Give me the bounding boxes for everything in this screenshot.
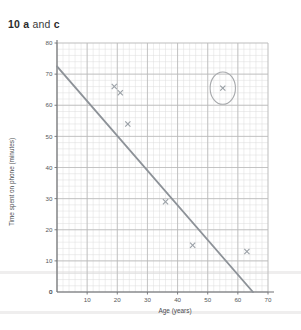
question-part-c: c [54, 18, 60, 30]
line-of-best-fit [57, 66, 253, 292]
question-conjunction: and [32, 18, 50, 30]
x-tick-label: 10 [84, 296, 91, 303]
tick-labels-x: 010203040506070 [49, 288, 272, 302]
x-tick-label: 60 [234, 296, 241, 303]
chart-canvas: 01020304050607080 010203040506070 Age (y… [0, 32, 301, 322]
y-tick-label: 50 [46, 133, 53, 140]
x-tick-label: 0 [49, 288, 53, 295]
y-tick-label: 80 [46, 39, 53, 46]
x-axis-title: Age (years) [158, 307, 191, 315]
x-tick-label: 50 [204, 296, 211, 303]
data-point-marker [244, 249, 249, 254]
y-tick-label: 10 [46, 257, 53, 264]
question-number: 10 [8, 18, 20, 30]
question-heading: 10 a and c [8, 18, 60, 30]
worksheet-page: 10 a and c 01020304050607080 01020304050… [0, 0, 301, 330]
data-points [112, 84, 250, 254]
x-tick-label: 20 [114, 296, 121, 303]
y-tick-label: 20 [46, 226, 53, 233]
y-axis-title: Time spent on phone (minutes) [8, 138, 16, 226]
y-tick-label: 70 [46, 70, 53, 77]
tick-labels-y: 01020304050607080 [46, 39, 53, 295]
x-tick-label: 40 [174, 296, 181, 303]
y-tick-label: 60 [46, 101, 53, 108]
data-point-marker [190, 243, 195, 248]
x-tick-label: 30 [144, 296, 151, 303]
y-tick-label: 30 [46, 195, 53, 202]
data-point-marker [220, 86, 225, 91]
x-tick-label: 70 [265, 296, 272, 303]
scatter-chart: 01020304050607080 010203040506070 Age (y… [0, 32, 301, 322]
y-tick-label: 40 [46, 164, 53, 171]
trend-line [57, 66, 253, 292]
